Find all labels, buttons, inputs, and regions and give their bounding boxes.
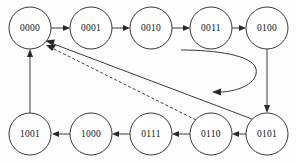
arrow-head-icon (183, 25, 190, 31)
state-diagram-canvas: 0000 0001 0010 0011 0100 0101 0110 0111 (0, 0, 297, 163)
arrow-head-icon (27, 49, 33, 57)
node-label: 0100 (257, 23, 277, 33)
edge-0110-to-0000-dashed (46, 45, 196, 120)
node-label: 0011 (201, 23, 221, 33)
state-node-1001[interactable]: 1001 (9, 113, 51, 155)
edge-1000-to-1001 (52, 131, 70, 137)
edge-0001-to-0010 (112, 25, 130, 31)
node-label: 0010 (141, 23, 161, 33)
node-label: 0001 (81, 23, 101, 33)
diagram-svg: 0000 0001 0010 0011 0100 0101 0110 0111 (0, 0, 297, 163)
state-node-0010[interactable]: 0010 (130, 7, 172, 49)
edge-0100-to-0101 (264, 49, 270, 113)
edge-0010-to-0011 (172, 25, 190, 31)
arrow-head-icon (232, 131, 239, 137)
state-node-0111[interactable]: 0111 (130, 113, 172, 155)
state-node-0100[interactable]: 0100 (246, 7, 288, 49)
edge-1001-to-0000 (27, 49, 33, 113)
node-label: 1001 (20, 129, 40, 139)
node-label: 0000 (20, 23, 40, 33)
arrow-head-icon (239, 25, 246, 31)
edge-0110-to-0111 (172, 131, 190, 137)
state-node-0101[interactable]: 0101 (246, 113, 288, 155)
edge-0011-to-0100 (232, 25, 246, 31)
node-label: 0111 (141, 129, 161, 139)
edge-0101-to-0000-diagonal (45, 40, 252, 120)
arrow-head-icon (212, 89, 221, 96)
state-node-0000[interactable]: 0000 (9, 7, 51, 49)
arrow-head-icon (52, 131, 59, 137)
node-label: 0101 (257, 129, 277, 139)
node-label: 0110 (201, 129, 221, 139)
arrow-head-icon (264, 105, 270, 113)
edge-0101-to-0110 (232, 131, 246, 137)
arrow-head-icon (46, 45, 56, 51)
edge-curved-hook-loop (181, 50, 256, 95)
arrow-head-icon (112, 131, 119, 137)
arrow-head-icon (123, 25, 130, 31)
state-node-0011[interactable]: 0011 (190, 7, 232, 49)
edge-0000-to-0001 (51, 25, 70, 31)
arrow-head-icon (172, 131, 179, 137)
state-node-1000[interactable]: 1000 (70, 113, 112, 155)
edge-0111-to-1000 (112, 131, 130, 137)
state-node-0110[interactable]: 0110 (190, 113, 232, 155)
node-label: 1000 (81, 129, 101, 139)
state-node-0001[interactable]: 0001 (70, 7, 112, 49)
arrow-head-icon (63, 25, 70, 31)
